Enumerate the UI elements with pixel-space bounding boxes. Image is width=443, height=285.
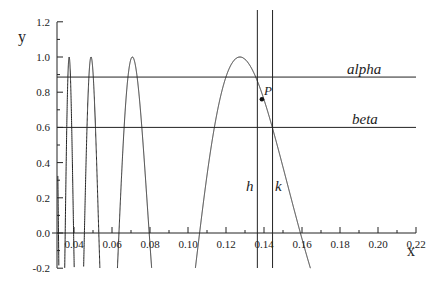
svg-text:1.2: 1.2 bbox=[36, 16, 50, 28]
svg-text:0.20: 0.20 bbox=[368, 238, 388, 250]
svg-text:0.18: 0.18 bbox=[330, 238, 350, 250]
point-p bbox=[260, 97, 265, 102]
svg-text:0.04: 0.04 bbox=[64, 238, 84, 250]
svg-text:0.08: 0.08 bbox=[140, 238, 160, 250]
axes bbox=[52, 22, 416, 268]
k-label: k bbox=[275, 178, 282, 194]
svg-text:0.10: 0.10 bbox=[178, 238, 198, 250]
svg-text:0.06: 0.06 bbox=[102, 238, 122, 250]
tick-labels: 1.21.00.80.60.40.20.0-0.20.040.060.080.1… bbox=[33, 16, 426, 274]
svg-text:0.12: 0.12 bbox=[216, 238, 235, 250]
plot-area: 1.21.00.80.60.40.20.0-0.20.040.060.080.1… bbox=[0, 0, 443, 285]
alpha-label: alpha bbox=[347, 61, 381, 77]
y-axis-label: y bbox=[18, 28, 26, 46]
svg-text:0.16: 0.16 bbox=[292, 238, 312, 250]
vertical-lines bbox=[257, 10, 272, 268]
x-axis-label: x bbox=[407, 242, 415, 259]
beta-label: beta bbox=[352, 111, 378, 127]
svg-text:0.0: 0.0 bbox=[36, 227, 50, 239]
svg-text:1.0: 1.0 bbox=[36, 51, 50, 63]
chart: 1.21.00.80.60.40.20.0-0.20.040.060.080.1… bbox=[0, 0, 443, 285]
h-label: h bbox=[246, 178, 254, 194]
svg-text:0.8: 0.8 bbox=[36, 86, 50, 98]
svg-text:0.2: 0.2 bbox=[36, 192, 50, 204]
svg-text:0.4: 0.4 bbox=[36, 157, 50, 169]
point-p-label: P bbox=[263, 83, 272, 98]
svg-text:-0.2: -0.2 bbox=[33, 262, 50, 274]
svg-text:0.14: 0.14 bbox=[254, 238, 274, 250]
svg-text:0.6: 0.6 bbox=[36, 121, 50, 133]
